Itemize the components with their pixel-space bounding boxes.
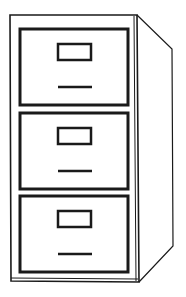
drawers — [20, 29, 128, 272]
drawer-front — [20, 29, 128, 105]
filing-cabinet-illustration — [0, 0, 186, 297]
drawer-front — [20, 196, 128, 272]
cabinet-front-frame — [10, 15, 139, 282]
label-holder-icon — [58, 211, 91, 227]
drawer-front — [20, 113, 128, 189]
label-holder-icon — [58, 128, 91, 144]
drawer-2[interactable] — [20, 113, 128, 189]
cabinet-side-panel — [137, 15, 173, 282]
drawer-3[interactable] — [20, 196, 128, 272]
cabinet-base-line — [11, 278, 138, 279]
label-holder-icon — [58, 44, 91, 60]
drawer-1[interactable] — [20, 29, 128, 105]
cabinet-front-inner-edge — [134, 16, 136, 281]
